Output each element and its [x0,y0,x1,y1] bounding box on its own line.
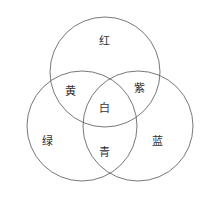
region-label-red: 红 [97,36,111,48]
region-label-cyan: 青 [97,147,111,159]
region-label-purple: 紫 [132,83,146,95]
region-label-white: 白 [97,103,111,115]
region-label-green: 绿 [40,136,54,148]
circle-left [27,71,137,181]
region-label-yellow: 黄 [63,86,77,98]
region-label-blue: 蓝 [150,136,164,148]
venn-diagram [0,0,208,197]
